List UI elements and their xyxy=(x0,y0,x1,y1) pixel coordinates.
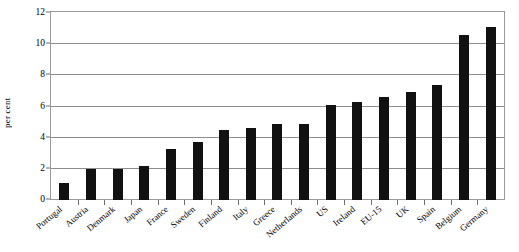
bar-slot xyxy=(211,12,238,200)
bar-slot xyxy=(451,12,478,200)
bar-slot xyxy=(184,12,211,200)
bar xyxy=(59,183,69,200)
x-tick-label: Denmark xyxy=(85,204,117,233)
chart-figure: per cent 024681012 PortugalAustriaDenmar… xyxy=(0,0,519,252)
x-tick-label: Sweden xyxy=(169,204,197,230)
bar xyxy=(219,130,229,200)
bar-slot xyxy=(344,12,371,200)
bar xyxy=(486,27,496,200)
x-tick-label: Portugal xyxy=(34,204,64,231)
x-tick-label: Finland xyxy=(196,204,224,229)
bar xyxy=(246,128,256,200)
y-tick-label: 4 xyxy=(6,132,50,142)
x-tick-label: Ireland xyxy=(331,204,357,228)
bar xyxy=(406,92,416,200)
y-tick-label: 2 xyxy=(6,163,50,173)
bar-slot xyxy=(371,12,398,200)
bar xyxy=(379,97,389,200)
bar xyxy=(166,149,176,200)
x-tick-label: UK xyxy=(394,204,410,220)
bar xyxy=(459,35,469,200)
y-tick-label: 8 xyxy=(6,69,50,79)
x-axis-labels: PortugalAustriaDenmarkJapanFranceSwedenF… xyxy=(0,200,519,252)
bar-slot xyxy=(317,12,344,200)
bar-slot xyxy=(158,12,185,200)
y-tick-label: 12 xyxy=(6,7,50,17)
bar xyxy=(326,105,336,200)
bar-slot xyxy=(237,12,264,200)
bar-slot xyxy=(78,12,105,200)
bar-slot xyxy=(291,12,318,200)
y-axis: 024681012 xyxy=(0,11,50,200)
y-tick-label: 10 xyxy=(6,38,50,48)
bar-slot xyxy=(131,12,158,200)
bar-slot xyxy=(104,12,131,200)
bar xyxy=(113,169,123,200)
bar-slot xyxy=(397,12,424,200)
bar-slot xyxy=(51,12,78,200)
bar xyxy=(139,166,149,200)
bar xyxy=(193,142,203,200)
x-tick-label: Italy xyxy=(231,204,250,222)
bar xyxy=(272,124,282,200)
x-tick-label: Spain xyxy=(415,204,437,225)
bar-series xyxy=(51,12,504,200)
y-tick-label: 6 xyxy=(6,101,50,111)
bar xyxy=(86,169,96,200)
bar xyxy=(432,85,442,200)
x-tick-label: Germany xyxy=(458,204,490,233)
bar-slot xyxy=(424,12,451,200)
x-tick-label: Japan xyxy=(122,204,144,225)
bar xyxy=(352,102,362,200)
bar-slot xyxy=(264,12,291,200)
x-tick-label: US xyxy=(315,204,330,219)
x-tick-label: EU-15 xyxy=(359,204,384,227)
x-tick-label: France xyxy=(145,204,170,227)
bar-slot xyxy=(477,12,504,200)
bar xyxy=(299,124,309,200)
